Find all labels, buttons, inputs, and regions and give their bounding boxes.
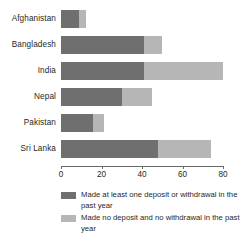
category-label: Sri Lanka xyxy=(0,140,56,158)
bar-row: Sri Lanka xyxy=(0,140,242,158)
bar-segment-active xyxy=(61,88,122,106)
bar-row: Afghanistan xyxy=(0,10,242,28)
plot-area: AfghanistanBangladeshIndiaNepalPakistanS… xyxy=(0,0,242,168)
bar-segment-dormant xyxy=(93,114,103,132)
x-axis-tick-mark xyxy=(183,166,184,169)
category-label: Bangladesh xyxy=(0,36,56,54)
bar-track xyxy=(61,114,242,132)
bar-track xyxy=(61,36,242,54)
category-label: Afghanistan xyxy=(0,10,56,28)
bar-row: India xyxy=(0,62,242,80)
bar-segment-active xyxy=(61,36,144,54)
category-label: India xyxy=(0,62,56,80)
bar-rows: AfghanistanBangladeshIndiaNepalPakistanS… xyxy=(0,10,242,166)
bar-row: Bangladesh xyxy=(0,36,242,54)
x-axis: 020406080 xyxy=(0,166,242,186)
x-axis-tick-mark xyxy=(102,166,103,169)
x-axis-tick-label: 40 xyxy=(130,170,154,179)
bar-row: Nepal xyxy=(0,88,242,106)
x-axis-tick-label: 0 xyxy=(49,170,73,179)
bar-track xyxy=(61,88,242,106)
stacked-bar-chart: AfghanistanBangladeshIndiaNepalPakistanS… xyxy=(0,0,242,249)
x-axis-tick-mark xyxy=(61,166,62,169)
bar-segment-active xyxy=(61,140,158,158)
category-label: Nepal xyxy=(0,88,56,106)
bar-segment-active xyxy=(61,10,79,28)
bar-segment-dormant xyxy=(79,10,86,28)
legend-label: Made no deposit and no withdrawal in the… xyxy=(81,213,242,234)
legend-swatch-icon xyxy=(61,215,76,222)
chart-legend: Made at least one deposit or withdrawal … xyxy=(61,190,242,236)
x-axis-tick-label: 60 xyxy=(171,170,195,179)
legend-item: Made at least one deposit or withdrawal … xyxy=(61,190,242,211)
legend-label: Made at least one deposit or withdrawal … xyxy=(81,190,242,211)
bar-segment-dormant xyxy=(144,62,223,80)
bar-segment-active xyxy=(61,114,93,132)
category-label: Pakistan xyxy=(0,114,56,132)
x-axis-tick-label: 80 xyxy=(211,170,235,179)
bar-track xyxy=(61,140,242,158)
legend-swatch-icon xyxy=(61,192,76,199)
bar-row: Pakistan xyxy=(0,114,242,132)
x-axis-tick-label: 20 xyxy=(90,170,114,179)
bar-segment-dormant xyxy=(158,140,211,158)
bar-segment-active xyxy=(61,62,144,80)
bar-segment-dormant xyxy=(144,36,162,54)
bar-track xyxy=(61,10,242,28)
x-axis-tick-mark xyxy=(142,166,143,169)
legend-item: Made no deposit and no withdrawal in the… xyxy=(61,213,242,234)
bar-track xyxy=(61,62,242,80)
x-axis-tick-mark xyxy=(223,166,224,169)
bar-segment-dormant xyxy=(122,88,152,106)
